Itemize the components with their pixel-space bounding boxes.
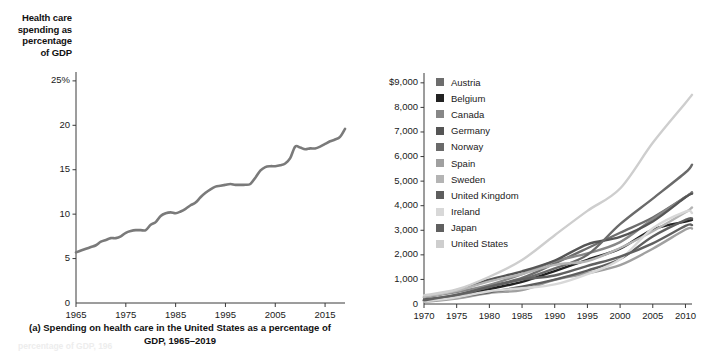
legend-item-label: Germany [451, 125, 490, 136]
legend-item-label: Spain [451, 158, 475, 169]
panel-b-ytick-label: 6,000 [394, 150, 418, 161]
panel-b-legend: AustriaBelgiumCanadaGermanyNorwaySpainSw… [436, 74, 519, 252]
legend-color-swatch-icon [436, 143, 444, 151]
legend-item-label: Norway [451, 141, 483, 152]
legend-item-label: Sweden [451, 174, 485, 185]
legend-item-label: United States [451, 238, 508, 249]
legend-item[interactable]: Norway [436, 139, 519, 155]
panel-b-ytick-label: 0 [413, 298, 418, 309]
legend-color-swatch-icon [436, 224, 444, 232]
bleedthrough-artifact: percentage of GDP, 196 [18, 341, 112, 351]
legend-item[interactable]: Spain [436, 155, 519, 171]
legend-item[interactable]: Germany [436, 123, 519, 139]
legend-item-label: Japan [451, 222, 477, 233]
legend-item-label: Belgium [451, 93, 485, 104]
panel-b-ytick-label: 8,000 [394, 101, 418, 112]
legend-item[interactable]: Canada [436, 106, 519, 122]
legend-color-swatch-icon [436, 191, 444, 199]
panel-b-xtick-label: 2010 [655, 310, 706, 321]
legend-color-swatch-icon [436, 159, 444, 167]
legend-item[interactable]: United States [436, 236, 519, 252]
panel-b-plot-area [0, 0, 355, 358]
legend-color-swatch-icon [436, 110, 444, 118]
legend-item-label: Canada [451, 109, 484, 120]
legend-color-swatch-icon [436, 94, 444, 102]
legend-color-swatch-icon [436, 127, 444, 135]
legend-item-label: Ireland [451, 206, 480, 217]
figure-health-care-spending: Health care spending as percentage of GD… [0, 0, 706, 358]
legend-item[interactable]: Ireland [436, 204, 519, 220]
legend-color-swatch-icon [436, 208, 444, 216]
panel-b-ytick-label: 1,000 [394, 273, 418, 284]
panel-b-spending-per-person: Health care spending per person (b) Heal… [351, 0, 706, 358]
legend-item-label: Austria [451, 77, 481, 88]
legend-item-label: United Kingdom [451, 190, 519, 201]
legend-color-swatch-icon [436, 78, 444, 86]
legend-item[interactable]: United Kingdom [436, 187, 519, 203]
panel-b-ytick-label: 2,000 [394, 248, 418, 259]
panel-b-ytick-label: 5,000 [394, 175, 418, 186]
legend-color-swatch-icon [436, 175, 444, 183]
legend-color-swatch-icon [436, 240, 444, 248]
panel-b-ytick-label: 3,000 [394, 224, 418, 235]
legend-item[interactable]: Sweden [436, 171, 519, 187]
legend-item[interactable]: Belgium [436, 90, 519, 106]
legend-item[interactable]: Austria [436, 74, 519, 90]
legend-item[interactable]: Japan [436, 220, 519, 236]
panel-b-ytick-label: $9,000 [389, 76, 418, 87]
panel-b-ytick-label: 4,000 [394, 199, 418, 210]
panel-b-ytick-label: 7,000 [394, 125, 418, 136]
